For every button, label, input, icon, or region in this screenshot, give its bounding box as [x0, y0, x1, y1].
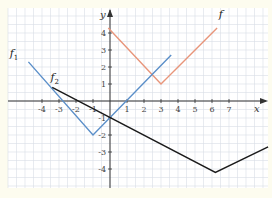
y-tick-label: 4 — [101, 29, 106, 38]
function-graph: -4-3-2-112345674321-1-2-3-4 xyff1f2 — [0, 0, 272, 198]
x-tick-label: -4 — [38, 105, 46, 114]
x-tick-label: 5 — [192, 105, 197, 114]
x-tick-label: 6 — [209, 105, 214, 114]
y-tick-label: 2 — [101, 63, 106, 72]
x-tick-label: -3 — [55, 105, 63, 114]
x-tick-label: 4 — [175, 105, 180, 114]
y-tick-label: -3 — [98, 148, 106, 157]
y-tick-label: -2 — [98, 131, 106, 140]
series-label-subscript: 1 — [14, 54, 18, 62]
x-axis-label: x — [254, 103, 260, 114]
y-tick-label: 3 — [101, 46, 106, 55]
x-tick-label: 2 — [141, 105, 146, 114]
y-axis-label: y — [99, 9, 106, 20]
y-tick-label: 1 — [101, 80, 106, 89]
x-tick-label: 3 — [158, 105, 163, 114]
y-tick-label: -4 — [98, 165, 106, 174]
series-label-subscript: 2 — [55, 78, 59, 86]
x-tick-label: 1 — [124, 105, 129, 114]
x-tick-label: 7 — [226, 105, 231, 114]
